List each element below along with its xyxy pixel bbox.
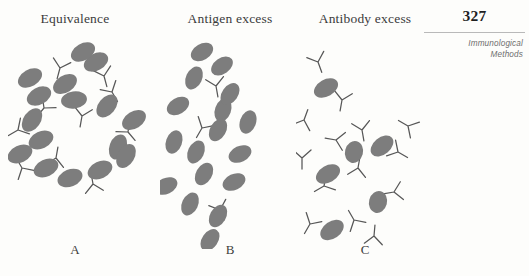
running-head-line-2: Methods [424,50,525,61]
antigen-ellipse [208,53,237,80]
panel-letter-b: B [156,242,304,258]
panel-title-antibody-excess: Antibody excess [290,11,440,27]
antigen-ellipse [236,108,259,136]
antibody-y [324,129,346,150]
antigen-ellipse [160,174,180,199]
panel-title-antigen-excess: Antigen excess [156,11,304,27]
antibody-y [307,51,330,75]
antigen-ellipse [367,131,398,161]
antigen-ellipse [118,106,149,134]
antigen-ellipse [178,190,203,219]
figure-root: Equivalence Antigen excess Antibody exce… [0,0,529,276]
antibody-y [71,107,92,129]
antibody-y [296,107,316,131]
antigen-ellipse [316,216,347,245]
page-number: 327 [424,6,525,26]
running-head: 327 Immunological Methods [424,6,525,60]
antigen-ellipse [342,139,365,165]
antigen-ellipse [226,142,255,167]
antigen-ellipse [55,165,85,191]
antigen-ellipse [205,116,231,145]
panel-c-diagram [296,34,426,249]
antigen-ellipse [191,160,217,189]
panel-b-diagram [160,34,280,249]
antigen-ellipse [164,93,193,119]
antigen-ellipse [310,74,341,102]
panel-letter-a: A [0,242,150,258]
antigen-ellipse [85,157,116,183]
antigen-ellipse [220,170,249,195]
antibody-y [394,113,419,138]
panel-title-equivalence: Equivalence [0,11,150,27]
antigen-ellipse [312,160,343,188]
antibody-y [352,121,373,143]
antibody-y [331,91,352,113]
antigen-ellipse [162,128,185,156]
antigen-ellipse [92,91,122,122]
running-head-line-1: Immunological [424,39,525,50]
antibody-y [297,213,322,238]
panel-letter-c: C [290,242,440,258]
antigen-ellipse [184,138,209,167]
antibody-y [341,206,366,231]
antibody-y [296,150,311,169]
antigen-ellipse [188,39,217,65]
panel-a-diagram [8,34,158,234]
header-divider [424,32,525,33]
antigen-ellipse [182,64,207,93]
